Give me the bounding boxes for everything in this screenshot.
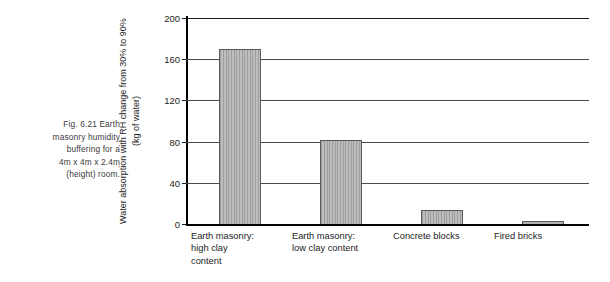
y-tick-mark	[182, 100, 186, 101]
y-tick-label: 0	[175, 219, 180, 230]
x-axis-category-line: content	[191, 255, 254, 267]
caption-line: (height) room.	[8, 168, 120, 181]
y-tick-mark	[182, 18, 186, 19]
y-tick-mark	[182, 183, 186, 184]
bar	[320, 140, 362, 224]
figure-caption: Fig. 6.21 Earth masonry humidity bufferi…	[8, 118, 120, 181]
y-tick-mark	[182, 59, 186, 60]
y-tick-mark	[182, 224, 186, 225]
x-axis-category-label: Concrete blocks	[393, 230, 460, 242]
x-axis-category-label: Earth masonry:high claycontent	[191, 230, 254, 267]
x-axis-category-line: Concrete blocks	[393, 230, 460, 242]
y-tick-label: 80	[169, 136, 180, 147]
bar	[421, 210, 463, 224]
x-axis-category-label: Fired bricks	[494, 230, 542, 242]
plot-area: 04080120160200	[186, 18, 589, 224]
bar	[219, 49, 261, 224]
y-axis-line	[186, 16, 188, 226]
y-axis-title: Water absorption with RH change from 30%…	[117, 18, 143, 224]
x-axis-line	[186, 224, 589, 226]
y-tick-mark	[182, 142, 186, 143]
x-axis-category-line: low clay content	[292, 242, 358, 254]
x-axis-category-line: Fired bricks	[494, 230, 542, 242]
figure-container: Fig. 6.21 Earth masonry humidity bufferi…	[0, 0, 610, 282]
caption-line: Fig. 6.21 Earth	[8, 118, 120, 131]
y-tick-label: 200	[164, 13, 180, 24]
x-axis-category-line: Earth masonry:	[191, 230, 254, 242]
y-tick-label: 120	[164, 95, 180, 106]
x-axis-category-line: high clay	[191, 242, 254, 254]
x-axis-category-label: Earth masonry:low clay content	[292, 230, 358, 255]
caption-line: 4m x 4m x 2.4m	[8, 156, 120, 169]
caption-line: buffering for a	[8, 143, 120, 156]
caption-line: masonry humidity	[8, 131, 120, 144]
y-axis-title-container: Water absorption with RH change from 30%…	[112, 18, 148, 224]
bar	[522, 221, 564, 224]
y-tick-label: 40	[169, 177, 180, 188]
y-tick-label: 160	[164, 54, 180, 65]
x-axis-category-line: Earth masonry:	[292, 230, 358, 242]
gridline	[186, 18, 589, 19]
